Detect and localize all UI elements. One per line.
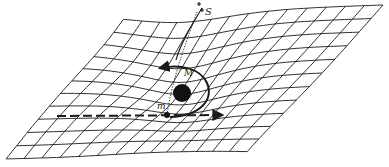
grid-line	[27, 126, 270, 132]
grid-line	[197, 7, 326, 151]
star-marker-icon	[197, 2, 204, 12]
warped-grid	[6, 5, 383, 159]
label-M: M	[183, 68, 194, 78]
grid-line	[72, 73, 322, 95]
grid-line	[247, 5, 383, 152]
grid-line	[94, 46, 347, 69]
grid-line	[6, 19, 123, 159]
grid-line	[83, 59, 335, 82]
grid-line	[42, 22, 160, 158]
spacetime-diagram: S M m	[0, 0, 389, 167]
central-mass-M	[173, 84, 191, 102]
grid-line	[97, 19, 211, 155]
label-S: S	[205, 6, 212, 17]
grid-line	[167, 9, 288, 152]
label-m: m	[157, 101, 166, 111]
grid-line	[213, 6, 346, 151]
grid-line	[38, 113, 283, 122]
grid-line	[6, 151, 247, 159]
test-mass-m	[164, 112, 170, 118]
grid-line	[60, 23, 177, 158]
grid-line	[24, 21, 142, 159]
trajectory-dashed-arrow	[57, 115, 222, 116]
